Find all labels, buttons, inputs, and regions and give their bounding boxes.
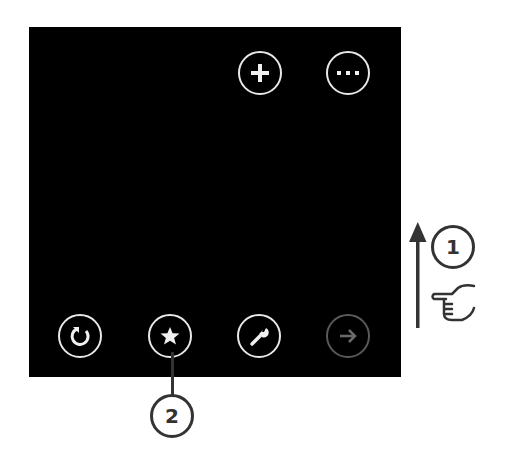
callout-2: 2 — [150, 394, 194, 438]
more-button[interactable] — [326, 51, 370, 95]
wrench-icon — [248, 325, 270, 347]
swipe-up-arrow-icon — [408, 220, 428, 330]
pointing-hand-icon — [430, 280, 478, 324]
plus-icon — [249, 62, 271, 84]
app-screen — [29, 27, 401, 377]
settings-button[interactable] — [237, 314, 281, 358]
callout-2-leader-line — [171, 352, 174, 396]
callout-1: 1 — [431, 225, 475, 269]
callout-2-label: 2 — [165, 404, 179, 428]
refresh-icon — [69, 325, 91, 347]
forward-button[interactable] — [326, 314, 370, 358]
favorite-button[interactable] — [148, 314, 192, 358]
arrow-right-icon — [337, 325, 359, 347]
add-button[interactable] — [238, 51, 282, 95]
star-icon — [159, 325, 181, 347]
callout-1-label: 1 — [446, 235, 460, 259]
refresh-button[interactable] — [58, 314, 102, 358]
more-icon — [336, 69, 360, 77]
